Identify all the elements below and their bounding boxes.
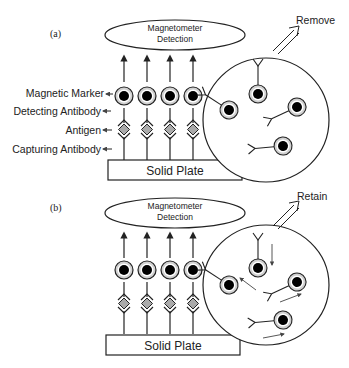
detector-line1-a: Magnetometer [148,23,203,33]
signal-arrows-b [124,235,193,258]
action-label-retain: Retain [297,190,328,202]
bound-complexes-a [115,87,202,160]
unbound-solution-b [195,225,329,345]
panel-label-b: (b) [50,202,62,214]
immunoassay-diagram: (a) Magnetometer Detection Solid Plate M… [0,0,349,368]
detector-line2-b: Detection [157,212,193,222]
remove-arrow: Remove [273,14,335,54]
plate-label-b: Solid Plate [144,339,202,353]
component-annotations: Magnetic Marker Detecting Antibody Antig… [12,87,113,155]
detector-line1-b: Magnetometer [148,201,203,211]
annotation-antigen: Antigen [65,124,101,136]
panel-b: (b) Magnetometer Detection Solid Plate [50,190,329,355]
annotation-magnetic-marker: Magnetic Marker [26,87,105,99]
signal-arrows-a [124,58,193,82]
detector-line2-a: Detection [157,34,193,44]
retain-arrow: Retain [273,190,328,229]
solid-plate-b: Solid Plate [106,335,240,355]
magnetometer-detector-a: Magnetometer Detection [105,20,245,50]
panel-label-a: (a) [50,28,61,40]
annotation-detecting-antibody: Detecting Antibody [13,105,101,117]
bound-complexes-b [115,261,202,334]
magnetometer-detector-b: Magnetometer Detection [105,198,245,228]
annotation-capturing-antibody: Capturing Antibody [12,143,101,155]
plate-label-a: Solid Plate [146,164,204,178]
panel-a: (a) Magnetometer Detection Solid Plate M… [12,14,335,182]
action-label-remove: Remove [296,14,335,26]
